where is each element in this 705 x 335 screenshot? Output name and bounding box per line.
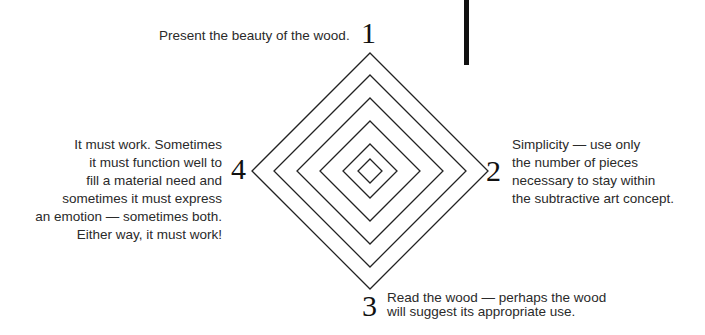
corner-text-4: It must work. Sometimes it must function… bbox=[35, 136, 222, 244]
corner-number-1: 1 bbox=[361, 18, 376, 48]
corner-number-3: 3 bbox=[362, 291, 377, 321]
diamond-ring-5 bbox=[343, 144, 397, 198]
diamond-ring-2 bbox=[274, 75, 466, 267]
diamond-ring-6 bbox=[358, 159, 382, 183]
text-line: the subtractive art concept. bbox=[512, 190, 674, 208]
text-line: the number of pieces bbox=[512, 154, 674, 172]
text-line: it must function well to bbox=[35, 154, 222, 172]
corner-number-4: 4 bbox=[231, 154, 246, 184]
diamond-diagram: 1 Present the beauty of the wood. 2 Simp… bbox=[0, 0, 705, 335]
diamond-ring-1 bbox=[252, 53, 488, 289]
text-line: It must work. Sometimes bbox=[35, 136, 222, 154]
text-line: will suggest its appropriate use. bbox=[387, 305, 606, 319]
text-line: fill a material need and bbox=[35, 172, 222, 190]
vertical-bar bbox=[464, 0, 469, 65]
diamond-ring-3 bbox=[297, 98, 443, 244]
text-line: Present the beauty of the wood. bbox=[159, 27, 350, 45]
text-line: sometimes it must express bbox=[35, 190, 222, 208]
text-line: Read the wood — perhaps the wood bbox=[387, 291, 606, 305]
diamond-ring-4 bbox=[320, 121, 420, 221]
corner-text-1: Present the beauty of the wood. bbox=[159, 27, 350, 45]
text-line: an emotion — sometimes both. bbox=[35, 208, 222, 226]
text-line: Simplicity — use only bbox=[512, 136, 674, 154]
text-line: necessary to stay within bbox=[512, 172, 674, 190]
corner-text-3: Read the wood — perhaps the wood will su… bbox=[387, 291, 606, 319]
text-line: Either way, it must work! bbox=[35, 226, 222, 244]
corner-number-2: 2 bbox=[486, 156, 501, 186]
corner-text-2: Simplicity — use only the number of piec… bbox=[512, 136, 674, 208]
